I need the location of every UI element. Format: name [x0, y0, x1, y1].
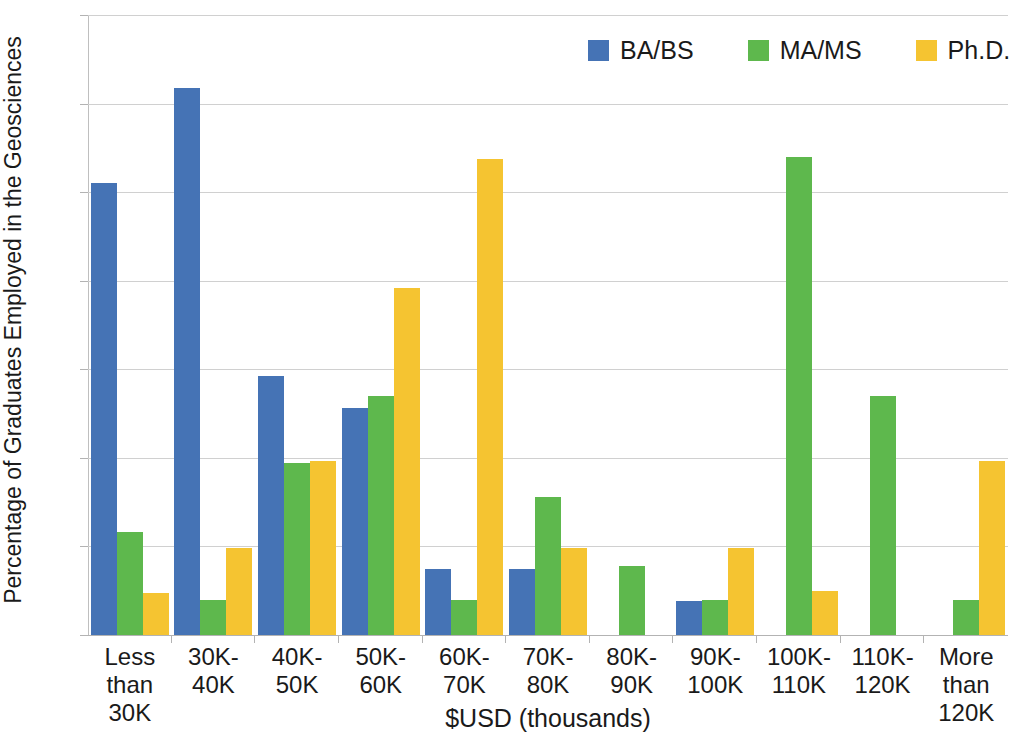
bar[interactable]: [477, 159, 503, 636]
y-axis-tick-mark: [80, 546, 88, 547]
y-axis-tick-mark: [80, 458, 88, 459]
bar[interactable]: [619, 566, 645, 635]
bar[interactable]: [174, 88, 200, 635]
x-axis-tick-label: 100K- 110K: [757, 643, 841, 699]
bar-group-bars: [841, 15, 925, 635]
bar[interactable]: [368, 396, 394, 635]
x-axis-tick-label: 40K- 50K: [255, 643, 339, 699]
x-axis-tick-mark: [756, 635, 757, 643]
y-axis-tick-mark: [80, 281, 88, 282]
bar-group: [172, 15, 256, 635]
bar-group-bars: [673, 15, 757, 635]
bar-group: [590, 15, 674, 635]
x-axis-tick-mark: [840, 635, 841, 643]
x-axis-tick-label: 70K- 80K: [506, 643, 590, 699]
bar-groups: [88, 15, 1008, 635]
bar[interactable]: [226, 548, 252, 635]
bar-group-bars: [423, 15, 507, 635]
x-axis-tick-mark: [672, 635, 673, 643]
y-axis-tick-mark: [80, 15, 88, 16]
x-axis-tick-label: 90K- 100K: [673, 643, 757, 699]
bar[interactable]: [786, 157, 812, 635]
bar[interactable]: [310, 461, 336, 635]
bar[interactable]: [258, 376, 284, 635]
bar-chart: BA/BSMA/MSPh.D. Percentage of Graduates …: [0, 0, 1018, 736]
bar-group: [255, 15, 339, 635]
x-axis-tick-mark: [338, 635, 339, 643]
y-axis-title: Percentage of Graduates Employed in the …: [0, 0, 30, 640]
x-axis-title: $USD (thousands): [88, 704, 1008, 733]
bar[interactable]: [200, 600, 226, 635]
x-axis-tick-label: 80K- 90K: [590, 643, 674, 699]
bar[interactable]: [870, 396, 896, 635]
bar-group: [506, 15, 590, 635]
x-axis-tick-label: 50K- 60K: [339, 643, 423, 699]
bar[interactable]: [91, 183, 117, 635]
bar[interactable]: [728, 548, 754, 635]
bar[interactable]: [284, 463, 310, 635]
x-axis-tick-label: 60K- 70K: [423, 643, 507, 699]
bar-group-bars: [339, 15, 423, 635]
bar-group: [88, 15, 172, 635]
bar[interactable]: [143, 593, 169, 636]
bar[interactable]: [425, 569, 451, 635]
y-axis-tick-mark: [80, 635, 88, 636]
bar-group-bars: [590, 15, 674, 635]
bar[interactable]: [394, 288, 420, 635]
y-axis-tick-mark: [80, 369, 88, 370]
bar[interactable]: [812, 591, 838, 635]
x-axis-tick-mark: [254, 635, 255, 643]
x-axis-tick-mark: [171, 635, 172, 643]
bar[interactable]: [535, 497, 561, 635]
bar-group-bars: [757, 15, 841, 635]
bar[interactable]: [451, 600, 477, 635]
bar[interactable]: [676, 601, 702, 635]
bar-group-bars: [506, 15, 590, 635]
bar[interactable]: [509, 569, 535, 635]
bar[interactable]: [561, 548, 587, 635]
x-axis-tick-mark: [589, 635, 590, 643]
x-axis-tick-label: 110K- 120K: [841, 643, 925, 699]
bar-group: [924, 15, 1008, 635]
bar[interactable]: [342, 408, 368, 635]
x-axis-tick-mark: [505, 635, 506, 643]
x-axis-tick-mark: [422, 635, 423, 643]
bar-group-bars: [88, 15, 172, 635]
bar[interactable]: [979, 461, 1005, 635]
plot-area: 35%30%25%20%15%10%5%0%: [88, 15, 1008, 635]
bar[interactable]: [702, 600, 728, 635]
bar-group: [841, 15, 925, 635]
gridline: [88, 635, 1008, 636]
x-axis-tick-mark: [923, 635, 924, 643]
x-axis-tick-label: 30K- 40K: [172, 643, 256, 699]
y-axis-tick-mark: [80, 104, 88, 105]
x-axis-tick-label: Less than 30K: [88, 643, 172, 699]
bar-group: [339, 15, 423, 635]
bar-group-bars: [924, 15, 1008, 635]
bar-group: [757, 15, 841, 635]
bar[interactable]: [117, 532, 143, 635]
x-axis-tick-label: More than 120K: [924, 643, 1008, 699]
bar-group: [673, 15, 757, 635]
y-axis-tick-mark: [80, 192, 88, 193]
bar-group-bars: [172, 15, 256, 635]
bar-group: [423, 15, 507, 635]
bar[interactable]: [953, 600, 979, 635]
bar-group-bars: [255, 15, 339, 635]
x-axis-tick-labels: Less than 30K30K- 40K40K- 50K50K- 60K60K…: [88, 643, 1008, 699]
